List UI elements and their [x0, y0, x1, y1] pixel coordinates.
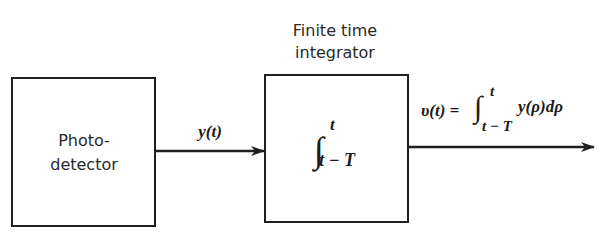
output-lower-limit: t − T: [482, 118, 513, 134]
integrator-title-line2: integrator: [295, 43, 375, 62]
integrator-box: [265, 75, 408, 222]
output-integrand: y(ρ)dρ: [516, 97, 563, 116]
block-diagram: Photo- detector y(t) Finite time integra…: [0, 0, 606, 238]
photodetector-label-line1: Photo-: [58, 131, 110, 150]
integrator-block: ∫ t t − T: [265, 75, 408, 222]
photodetector-block: Photo- detector: [12, 78, 155, 226]
input-signal: y(t): [155, 122, 264, 151]
photodetector-label-line2: detector: [50, 155, 118, 174]
integrator-title-line1: Finite time: [293, 21, 377, 40]
integrator-upper-limit: t: [330, 115, 336, 134]
output-signal: υ(t) = ∫ t t − T y(ρ)dρ: [408, 83, 594, 147]
output-upper-limit: t: [490, 83, 495, 99]
input-signal-label: y(t): [196, 122, 222, 141]
photodetector-box: [12, 78, 155, 226]
output-lhs: υ(t) =: [421, 101, 459, 120]
integrator-lower-limit: t − T: [319, 150, 356, 170]
